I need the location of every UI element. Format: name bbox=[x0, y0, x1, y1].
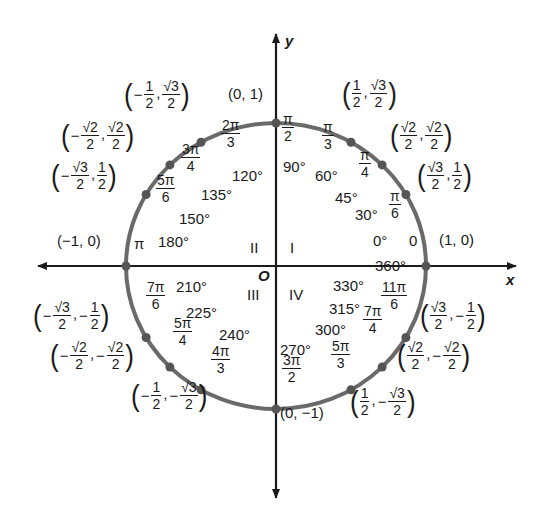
coord-y-210-denominator: 2 bbox=[91, 316, 99, 331]
degree-label-180: 180° bbox=[158, 234, 189, 249]
coord-x-45-denominator: 2 bbox=[405, 136, 413, 151]
radian-label-330: 11π6 bbox=[380, 280, 408, 311]
coord-y-240-numerator: √3 bbox=[180, 380, 197, 396]
radian-fraction-330-numerator: 11π bbox=[381, 280, 407, 296]
coord-x-30: √32 bbox=[427, 160, 444, 191]
coordinate-label-60: (12,√32) bbox=[342, 78, 397, 109]
coord-x-60-denominator: 2 bbox=[353, 94, 361, 109]
coord-x-315: √22 bbox=[407, 340, 424, 371]
degree-label-315: 315° bbox=[329, 301, 360, 316]
coord-y-120-denominator: 2 bbox=[167, 95, 175, 110]
coord-x-300-numerator: 1 bbox=[360, 386, 370, 402]
radian-fraction-300-numerator: 5π bbox=[331, 339, 350, 355]
radian-fraction-300: 5π3 bbox=[331, 339, 350, 370]
coord-x-300: 12 bbox=[360, 386, 370, 417]
radian-fraction-135: 3π4 bbox=[181, 142, 200, 173]
coord-x-240-numerator: 1 bbox=[151, 380, 161, 396]
radian-label-180: π bbox=[134, 236, 144, 251]
coord-x-240: 12 bbox=[151, 380, 161, 411]
degree-label-60: 60° bbox=[315, 168, 338, 183]
radian-fraction-45-denominator: 4 bbox=[361, 164, 369, 179]
radian-fraction-150: 5π6 bbox=[156, 173, 175, 204]
unit-circle-geometry bbox=[0, 0, 536, 512]
radian-label-0: 0 bbox=[409, 233, 417, 248]
coord-x-330: √32 bbox=[430, 300, 447, 331]
x-axis-label: x bbox=[506, 272, 514, 287]
degree-label-300: 300° bbox=[315, 322, 346, 337]
coord-y-150-denominator: 2 bbox=[98, 176, 106, 191]
point-30deg bbox=[401, 190, 410, 199]
radian-fraction-225-numerator: 5π bbox=[173, 316, 192, 332]
coord-y-300: √32 bbox=[388, 386, 405, 417]
coordinate-label-240: (−12,−√32) bbox=[131, 380, 207, 411]
coord-x-45: √22 bbox=[400, 120, 417, 151]
coord-x-330-numerator: √3 bbox=[430, 300, 447, 316]
unit-circle-diagram: x y O IIIIIIIV 0°0(1, 0)30°π6(√32,12)45°… bbox=[0, 0, 536, 512]
coord-y-300-numerator: √3 bbox=[388, 386, 405, 402]
degree-label-30: 30° bbox=[355, 207, 378, 222]
coord-x-210: √32 bbox=[53, 300, 70, 331]
radian-fraction-315-denominator: 4 bbox=[369, 320, 377, 335]
coordinate-label-150: (−√32,12) bbox=[51, 160, 117, 191]
coord-x-225: √22 bbox=[70, 340, 87, 371]
radian-fraction-330-denominator: 6 bbox=[390, 296, 398, 311]
radian-fraction-270-numerator: 3π bbox=[282, 353, 301, 369]
coord-x-135-denominator: 2 bbox=[86, 136, 94, 151]
quadrant-label-ii: II bbox=[250, 240, 258, 255]
coord-x-150-numerator: √3 bbox=[71, 160, 88, 176]
coord-y-315-numerator: √2 bbox=[443, 340, 460, 356]
point-180deg bbox=[122, 262, 131, 271]
coord-y-330-numerator: 1 bbox=[466, 300, 476, 316]
coord-y-150: 12 bbox=[97, 160, 107, 191]
degree-label-150: 150° bbox=[179, 211, 210, 226]
coordinate-label-30: (√32,12) bbox=[417, 160, 472, 191]
radian-fraction-270-denominator: 2 bbox=[288, 369, 296, 384]
point-315deg bbox=[378, 363, 387, 372]
coordinate-label-180: (−1, 0) bbox=[57, 233, 101, 248]
coord-y-330: 12 bbox=[466, 300, 476, 331]
radian-fraction-240-denominator: 3 bbox=[217, 360, 225, 375]
degree-label-0: 0° bbox=[373, 233, 387, 248]
radian-fraction-150-numerator: 5π bbox=[156, 173, 175, 189]
coord-y-120: √32 bbox=[162, 79, 179, 110]
coord-y-210-numerator: 1 bbox=[90, 300, 100, 316]
coord-y-210: 12 bbox=[90, 300, 100, 331]
radian-fraction-270: 3π2 bbox=[282, 353, 301, 384]
coord-x-150-denominator: 2 bbox=[76, 176, 84, 191]
coord-y-45-numerator: √2 bbox=[425, 120, 442, 136]
coord-y-225-denominator: 2 bbox=[112, 356, 120, 371]
radian-fraction-240: 4π3 bbox=[211, 344, 230, 375]
degree-label-330: 330° bbox=[333, 278, 364, 293]
radian-fraction-210-denominator: 6 bbox=[152, 296, 160, 311]
point-45deg bbox=[378, 160, 387, 169]
radian-fraction-30: π6 bbox=[389, 189, 401, 220]
radian-label-300: 5π3 bbox=[330, 339, 351, 370]
coordinate-label-135: (−√22,√22) bbox=[61, 120, 134, 151]
radian-label-60: π3 bbox=[321, 120, 335, 151]
point-60deg bbox=[347, 138, 356, 147]
coord-y-60-denominator: 2 bbox=[374, 94, 382, 109]
coord-y-315-denominator: 2 bbox=[448, 356, 456, 371]
coord-x-225-numerator: √2 bbox=[70, 340, 87, 356]
coordinate-label-0: (1, 0) bbox=[439, 232, 474, 247]
radian-label-240: 4π3 bbox=[210, 344, 231, 375]
coord-x-330-denominator: 2 bbox=[435, 316, 443, 331]
coord-x-45-numerator: √2 bbox=[400, 120, 417, 136]
radian-fraction-45-numerator: π bbox=[359, 148, 371, 164]
coord-y-225: √22 bbox=[107, 340, 124, 371]
coord-x-240-denominator: 2 bbox=[152, 396, 160, 411]
radian-fraction-330: 11π6 bbox=[381, 280, 407, 311]
degree-label-240: 240° bbox=[219, 327, 250, 342]
coord-x-315-numerator: √2 bbox=[407, 340, 424, 356]
radian-fraction-120-denominator: 3 bbox=[227, 134, 235, 149]
coord-x-120: 12 bbox=[144, 79, 154, 110]
radian-label-150: 5π6 bbox=[155, 173, 176, 204]
radian-fraction-120: 2π3 bbox=[221, 118, 240, 149]
radian-fraction-240-numerator: 4π bbox=[211, 344, 230, 360]
coord-x-135-numerator: √2 bbox=[81, 120, 98, 136]
coordinate-label-270: (0, −1) bbox=[280, 405, 324, 420]
radian-fraction-60-numerator: π bbox=[322, 120, 334, 136]
coord-y-330-denominator: 2 bbox=[467, 316, 475, 331]
coord-x-210-denominator: 2 bbox=[58, 316, 66, 331]
coordinate-label-210: (−√32,−12) bbox=[33, 300, 109, 331]
